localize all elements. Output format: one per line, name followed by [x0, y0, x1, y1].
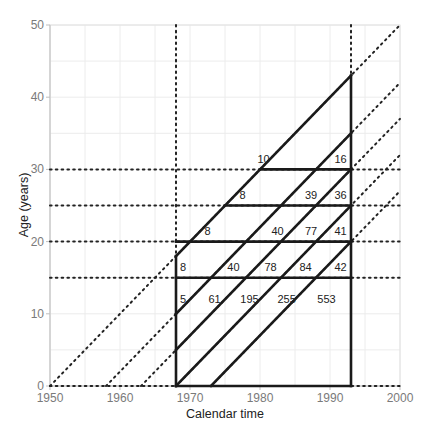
cell-count: 10	[257, 153, 269, 165]
y-tick-label: 20	[31, 235, 45, 249]
cell-count: 77	[305, 225, 317, 237]
solid-lexis-lines	[176, 76, 351, 386]
cell-count: 553	[317, 293, 335, 305]
cell-count: 16	[334, 153, 346, 165]
cell-count: 84	[299, 261, 311, 273]
y-tick-label: 40	[31, 90, 45, 104]
x-tick-label: 2000	[387, 391, 414, 405]
cell-count: 61	[208, 293, 220, 305]
cell-count: 78	[264, 261, 276, 273]
cell-count: 8	[239, 189, 245, 201]
cell-count: 195	[240, 293, 258, 305]
x-tick-label: 1970	[177, 391, 204, 405]
x-axis-label: Calendar time	[186, 407, 264, 421]
x-tick-label: 1950	[37, 391, 64, 405]
cell-count: 255	[277, 293, 295, 305]
cell-count: 40	[227, 261, 239, 273]
x-tick-label: 1990	[317, 391, 344, 405]
solid-cohort-line	[176, 169, 351, 350]
solid-cohort-line	[176, 76, 351, 257]
cell-count: 39	[305, 189, 317, 201]
cell-count: 40	[271, 225, 283, 237]
y-axis-label: Age (years)	[17, 173, 31, 238]
y-tick-label: 50	[31, 18, 45, 32]
cell-count: 41	[334, 225, 346, 237]
y-tick-label: 10	[31, 307, 45, 321]
cell-count: 36	[334, 189, 346, 201]
x-tick-label: 1980	[247, 391, 274, 405]
lexis-diagram-chart: 19501960197019801990200001020304050 1016…	[0, 0, 432, 434]
y-tick-label: 0	[37, 379, 44, 393]
cell-count: 8	[180, 261, 186, 273]
y-tick-label: 30	[31, 162, 45, 176]
x-tick-label: 1960	[107, 391, 134, 405]
cell-count: 5	[180, 293, 186, 305]
cell-count: 8	[204, 225, 210, 237]
cell-count: 42	[334, 261, 346, 273]
